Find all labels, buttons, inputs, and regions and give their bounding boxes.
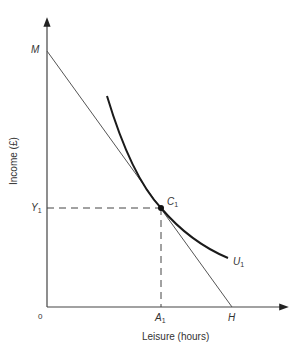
indifference-curve-u1	[107, 96, 228, 258]
label-c1: C1	[167, 196, 178, 208]
label-m: M	[31, 44, 39, 55]
label-h: H	[228, 312, 235, 323]
label-u1: U1	[233, 256, 244, 268]
label-a1: A1	[155, 312, 166, 324]
x-axis-label: Leisure (hours)	[142, 331, 209, 342]
diagram-canvas	[0, 0, 304, 353]
label-y1: Y1	[31, 202, 42, 214]
tangency-point-c1	[158, 205, 164, 211]
y-axis-label: Income (£)	[8, 137, 19, 185]
origin-label: 0	[38, 312, 42, 321]
